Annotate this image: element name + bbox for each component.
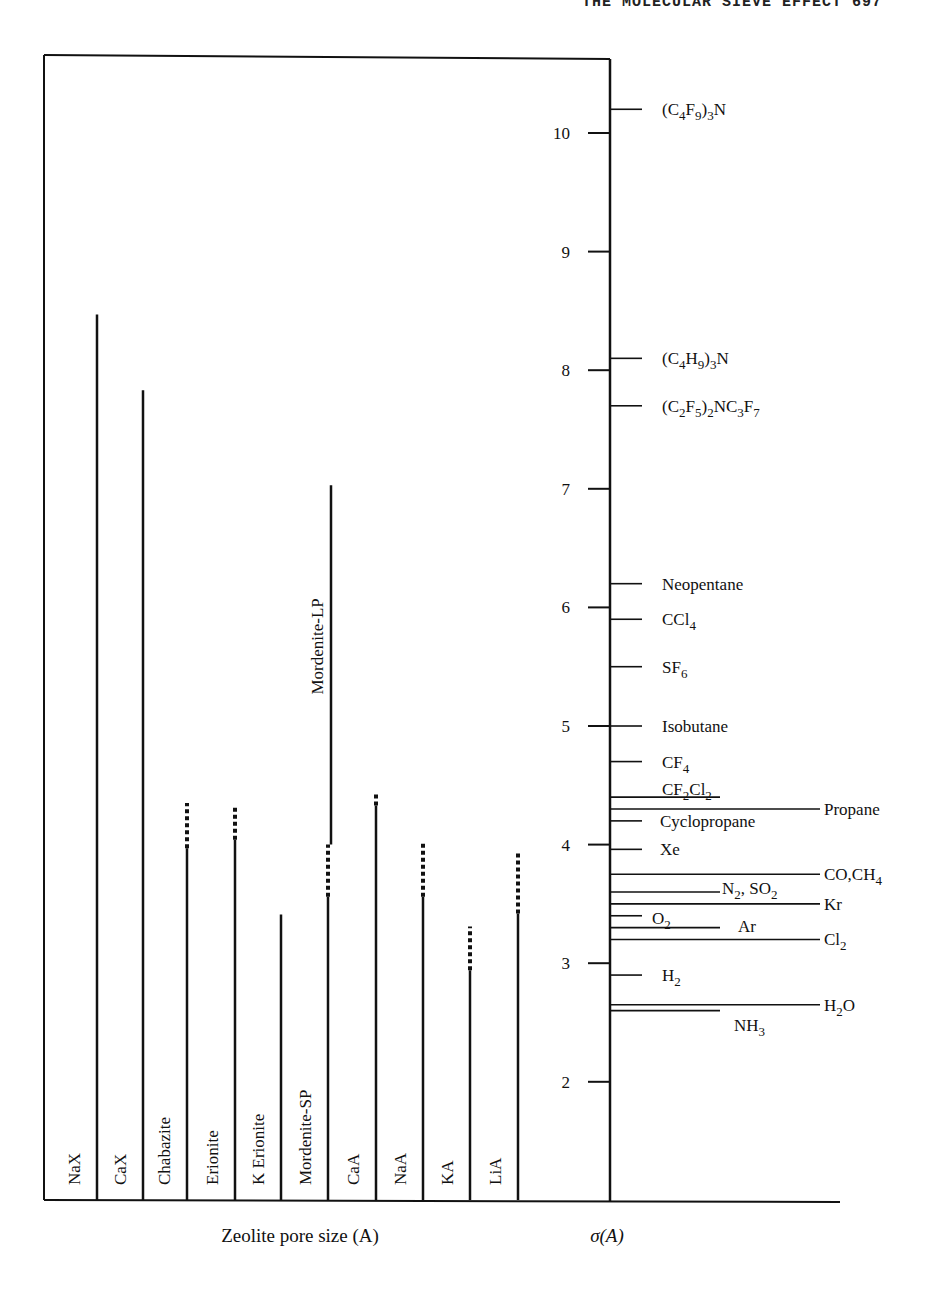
bar-label: KA [438,1160,457,1185]
chart-figure: THE MOLECULAR SIEVE EFFECT 697 234567891… [0,0,942,1295]
molecule-label: Cl2​ [824,930,847,953]
molecule-label: Neopentane [662,575,743,594]
y-tick-label: 10 [553,124,570,143]
molecule-label: CF2​Cl2​ [662,780,712,803]
bar-label: CaX [111,1154,130,1185]
molecule-label: H2​ [662,966,681,989]
frame-top [44,55,610,59]
bar-label: NaA [391,1152,410,1185]
bar-label: Mordenite-SP [296,1090,315,1185]
bar-label-mordenite-lp: Mordenite-LP [308,598,327,694]
bar-label: NaX [65,1153,84,1185]
y-tick-label: 7 [562,480,571,499]
x-axis-title: Zeolite pore size (A) [221,1225,379,1247]
bar-label: CaA [344,1153,363,1185]
molecule-label: Xe [660,840,680,859]
y-tick-label: 8 [562,361,571,380]
molecule-label: N2​, SO2​ [722,879,778,902]
y-tick-label: 5 [562,717,571,736]
molecule-label: Propane [824,800,880,819]
molecule-label: CF4​ [662,753,690,776]
molecule-label: Isobutane [662,717,728,736]
molecule-label: Kr [824,895,842,914]
running-header: THE MOLECULAR SIEVE EFFECT 697 [582,0,882,11]
baseline [44,1200,840,1202]
y-tick-label: 2 [562,1073,571,1092]
bar-label: LiA [486,1157,505,1185]
bar-label: Chabazite [155,1117,174,1185]
y-tick-label: 3 [562,954,571,973]
molecule-label: NH3​ [734,1016,765,1039]
molecule-label: SF6​ [662,658,688,681]
zeolite-sigma-chart: 2345678910NaXCaXChabaziteErioniteK Erion… [0,0,942,1295]
molecule-label: H2​O [824,996,855,1019]
molecule-label: CO,CH4​ [824,865,882,888]
molecule-label: (C2​F5​)2​NC3​F7​ [662,397,760,420]
bar-label: Erionite [203,1130,222,1185]
bar-label: K Erionite [249,1114,268,1185]
molecule-label: Ar [738,917,756,936]
molecule-label: (C4​F9​)3​N [662,100,726,123]
y-tick-label: 9 [562,243,571,262]
molecule-label: CCl4​ [662,610,696,633]
y-tick-label: 4 [562,836,571,855]
molecule-label: (C4​H9​)3​N [662,349,729,372]
y-axis-title: σ(A) [590,1225,624,1247]
molecule-label: Cyclopropane [660,812,755,831]
y-tick-label: 6 [562,598,571,617]
